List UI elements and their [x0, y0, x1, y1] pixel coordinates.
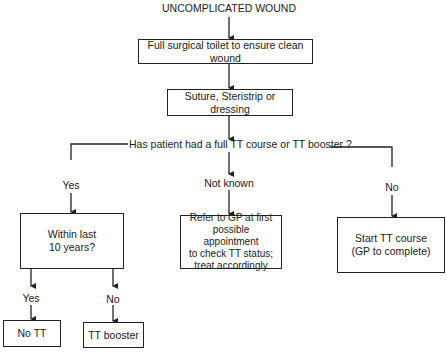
node-label: No TT — [18, 327, 47, 340]
node-surgical-toilet: Full surgical toilet to ensure clean wou… — [138, 39, 313, 64]
node-label: Full surgical toilet to ensure clean wou… — [143, 39, 308, 65]
node-closure: Suture, Steristrip or dressing — [167, 89, 293, 116]
node-label: Suture, Steristrip or dressing — [172, 90, 288, 116]
edge-label-yes: Yes — [56, 179, 86, 191]
node-refer-to-gp: Refer to GP at first possible appointmen… — [180, 215, 282, 269]
node-label: TT booster — [88, 329, 139, 342]
node-label: Start TT course (GP to complete) — [351, 232, 430, 258]
node-tt-booster: TT booster — [83, 322, 144, 348]
edge-label-sub-yes: Yes — [18, 292, 44, 304]
edge-label-sub-no: No — [101, 293, 125, 305]
node-label: Within last 10 years? — [48, 228, 96, 254]
node-label: Refer to GP at first possible appointmen… — [185, 212, 277, 272]
node-no-tt: No TT — [3, 320, 61, 347]
flowchart-title: UNCOMPLICATED WOUND — [129, 2, 329, 14]
node-tt-question: Has patient had a full TT course or TT b… — [129, 138, 329, 150]
node-start-tt-course: Start TT course (GP to complete) — [337, 217, 445, 273]
node-within-10-years: Within last 10 years? — [20, 213, 124, 269]
edge-label-no: No — [380, 181, 404, 193]
edge-label-not-known: Not known — [199, 177, 259, 189]
